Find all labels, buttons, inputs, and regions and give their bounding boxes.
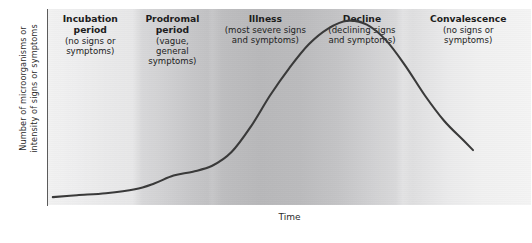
disease-stages-chart: Number of microorganisms or intensity of… [0,0,532,243]
plot-area: Incubation period(no signs or symptoms)P… [48,9,531,205]
disease-progression-curve [48,9,531,205]
y-axis-title: Number of microorganisms or intensity of… [18,9,39,169]
x-axis-title: Time [48,212,531,222]
curve-path [53,21,473,198]
y-axis-label-area: Number of microorganisms or intensity of… [0,0,46,210]
